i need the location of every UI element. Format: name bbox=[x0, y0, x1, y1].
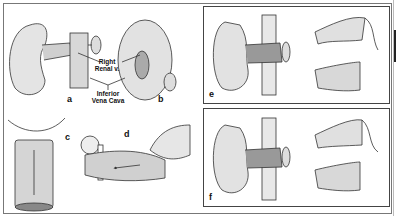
illustration-drawing bbox=[0, 0, 397, 216]
panel-label-e: e bbox=[209, 90, 214, 99]
clamp-d bbox=[81, 136, 99, 154]
kidney-a bbox=[10, 24, 47, 95]
panel-label-a: a bbox=[67, 95, 72, 104]
panel-label-d: d bbox=[124, 130, 130, 139]
label-inferior-vena-cava: Inferior Vena Cava bbox=[88, 90, 128, 104]
label-right-renal-vein: Right Renal v. bbox=[92, 58, 122, 72]
panel-label-f: f bbox=[209, 193, 212, 202]
panel-label-c: c bbox=[65, 133, 70, 142]
panel-label-b: b bbox=[158, 95, 164, 104]
